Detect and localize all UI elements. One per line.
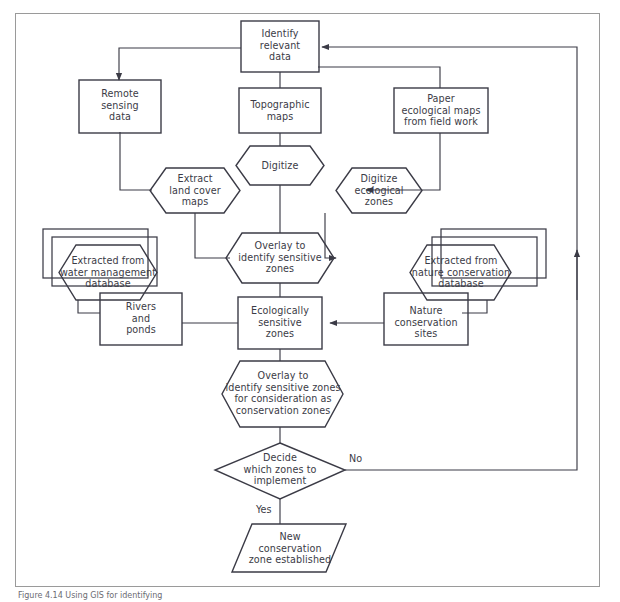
edge-extract-overlay1 [195,213,230,258]
node-overlay-identify-sensitive-zones [226,233,334,283]
node-paper-ecological-maps [394,88,488,133]
flowchart-canvas [0,0,620,602]
node-extract-land-cover-maps [150,168,240,213]
node-nature-db-sheet-back [441,229,546,278]
edge-identify-remote [119,48,241,80]
figure-caption: Figure 4.14 Using GIS for identifying [18,591,598,602]
node-decide-which-zones [215,443,345,499]
node-extracted-nature-conservation-database [410,245,511,300]
node-topographic-maps [239,88,321,133]
node-new-conservation-zone-established [232,524,346,572]
node-extracted-water-management-database [59,245,157,300]
figure-page: Identify relevant data Remote sensing da… [0,0,620,602]
node-digitize [236,146,324,185]
edge-identify-paper [318,67,440,88]
edge-label-no: No [349,453,362,464]
node-overlay-consideration-conservation-zones [222,361,343,427]
node-identify-relevant-data [241,21,319,72]
edge-remote-extract [120,132,152,190]
node-rivers-and-ponds [100,293,182,345]
node-remote-sensing-data [79,80,161,133]
edge-paper-digitizeeco [366,133,440,190]
edge-label-yes: Yes [256,504,272,515]
edge-decide-identify-no [322,47,577,470]
edge-naturedb-sites [462,300,487,313]
node-water-db-sheet-back [43,229,148,278]
node-ecologically-sensitive-zones [238,297,322,349]
node-nature-conservation-sites [384,293,468,345]
edge-waterdb-rivers [78,300,100,313]
